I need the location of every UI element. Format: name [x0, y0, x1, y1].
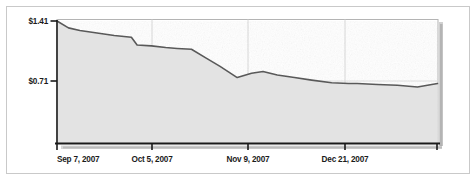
chart-figure: $1.41 $0.71 Sep 7, 2007 Oct 5, 2007 Nov … — [0, 0, 476, 180]
x-tick-label-3: Dec 21, 2007 — [322, 155, 369, 164]
y-tick-label-mid: $0.71 — [29, 77, 49, 86]
x-tick-label-1: Oct 5, 2007 — [131, 155, 173, 164]
y-axis — [51, 20, 58, 144]
x-tick-label-2: Nov 9, 2007 — [227, 155, 271, 164]
area-chart: $1.41 $0.71 Sep 7, 2007 Oct 5, 2007 Nov … — [0, 0, 476, 180]
x-tick-label-0: Sep 7, 2007 — [57, 155, 100, 164]
y-tick-label-max: $1.41 — [29, 17, 49, 26]
